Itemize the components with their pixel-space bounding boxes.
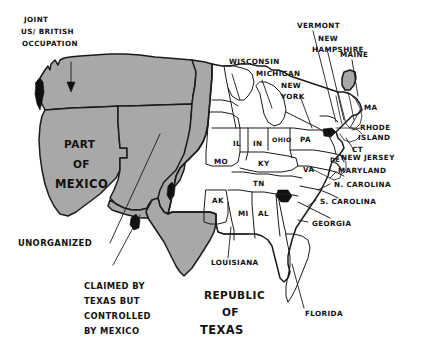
joint-occupation-line-3: OCCUPATION: [22, 39, 78, 48]
part-of-mexico-line-1: PART: [64, 138, 96, 150]
boundary-iowa: [212, 100, 238, 106]
joint-occupation-line-2: US/ BRITISH: [21, 27, 74, 36]
boundary-louisiana-gulf: [216, 224, 248, 234]
joint-occupation-line-1: JOINT: [23, 15, 48, 24]
republic-of-texas-line-1: REPUBLIC: [204, 289, 265, 301]
label-delaware: DE: [330, 156, 340, 163]
claimed-by-texas-line-2: TEXAS BUT: [84, 296, 140, 306]
historical-us-map: JOINT US/ BRITISH OCCUPATION PART OF MEX…: [0, 0, 429, 349]
leader-florida: [292, 264, 304, 308]
label-georgia: GEORGIA: [312, 219, 351, 228]
label-indiana: IN: [253, 139, 263, 148]
label-mississippi: MI: [238, 209, 249, 218]
boundary-florida: [286, 234, 310, 302]
boundary-wisconsin: [228, 88, 236, 128]
republic-of-texas-line-3: TEXAS: [200, 323, 244, 337]
part-of-mexico-line-2: OF: [73, 158, 90, 170]
boundary-il-in-oh-pa: [212, 128, 322, 130]
label-virginia: VA: [303, 165, 314, 174]
label-massachusetts: MA: [364, 103, 378, 112]
label-louisiana: LOUISIANA: [211, 258, 259, 267]
boundary-connecticut-ri: [340, 134, 360, 142]
label-north-carolina: N. CAROLINA: [334, 180, 391, 189]
label-tennessee: TN: [253, 179, 265, 188]
label-illinois: IL: [233, 139, 241, 148]
label-florida: FLORIDA: [305, 309, 343, 318]
leader-claimed-by-texas: [113, 215, 140, 265]
blob-great-lakes-edge: [323, 128, 336, 137]
claimed-by-texas-line-1: CLAIMED BY: [84, 281, 146, 291]
label-arkansas: AK: [212, 196, 224, 205]
part-of-mexico-line-3: MEXICO: [55, 177, 108, 191]
label-maryland: MARYLAND: [338, 166, 386, 175]
label-rhode-island-line-2: ISLAND: [358, 133, 390, 142]
boundary-tennessee-north: [232, 172, 302, 178]
boundary-mississippi-alabama: [252, 192, 255, 238]
label-pennsylvania: PA: [300, 135, 311, 144]
region-oregon-country: [36, 54, 196, 110]
leader-wisconsin: [232, 74, 240, 100]
label-wisconsin: WISCONSIN: [229, 57, 280, 66]
claimed-by-texas-line-3: CONTROLLED: [84, 311, 151, 321]
label-maine: MAINE: [340, 50, 368, 59]
label-missouri: MO: [214, 157, 228, 166]
boundary-illinois-indiana: [246, 128, 248, 160]
claimed-by-texas-line-4: BY MEXICO: [84, 326, 139, 336]
label-rhode-island-line-1: RHODE: [360, 123, 391, 132]
label-alabama: AL: [258, 209, 269, 218]
label-new-york-line-1: NEW: [281, 81, 301, 90]
label-unorganized: UNORGANIZED: [18, 238, 92, 248]
label-new-hampshire-line-1: NEW: [318, 34, 338, 43]
boundary-lake-erie: [286, 112, 324, 132]
label-joint-occupation: JOINT US/ BRITISH OCCUPATION: [21, 15, 78, 48]
label-michigan: MICHIGAN: [256, 69, 300, 78]
label-ohio: OHIO: [272, 136, 292, 143]
boundary-pa-south: [290, 150, 336, 154]
label-vermont: VERMONT: [297, 21, 340, 30]
boundary-great-lakes: [224, 66, 254, 100]
republic-of-texas-line-2: OF: [222, 306, 239, 318]
label-south-carolina: S. CAROLINA: [320, 197, 376, 206]
label-republic-of-texas: REPUBLIC OF TEXAS: [200, 289, 265, 337]
region-republic-of-texas: [146, 198, 216, 276]
label-new-york-line-2: YORK: [280, 92, 305, 101]
leader-maryland: [330, 172, 336, 178]
boundary-ohio-pennsylvania: [290, 128, 292, 158]
label-kentucky: KY: [258, 159, 270, 168]
label-claimed-by-texas: CLAIMED BY TEXAS BUT CONTROLLED BY MEXIC…: [84, 281, 151, 336]
label-new-jersey: NEW JERSEY: [341, 153, 395, 162]
map-canvas: JOINT US/ BRITISH OCCUPATION PART OF MEX…: [0, 0, 429, 349]
leader-louisiana: [228, 227, 231, 258]
